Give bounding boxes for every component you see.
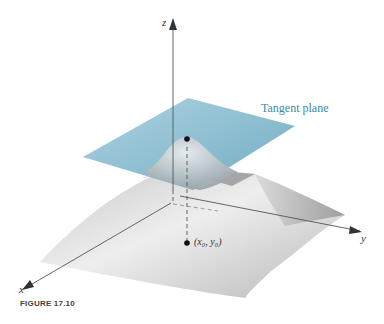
base-point-label: (x₀, y₀) [194,236,222,247]
x-axis-label: x [19,283,24,295]
tangent-plane-label: Tangent plane [261,101,328,116]
y-axis-label: y [361,232,366,244]
tangent-point-icon [184,136,190,142]
z-axis-label: z [162,16,166,28]
base-point-icon [184,240,190,246]
tangent-plane-figure [0,0,384,324]
figure-caption: FIGURE 17.10 [20,299,75,308]
z-arrow-icon [169,18,177,30]
